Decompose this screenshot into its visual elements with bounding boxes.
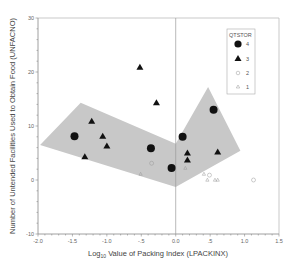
open-circle-icon xyxy=(252,178,256,182)
y-tick-label: 0 xyxy=(31,177,34,183)
scatter-chart: -2.0-1.5-1.0-.50.0.51.01.5 -100102030 Lo… xyxy=(0,0,300,269)
y-tick-label: 10 xyxy=(28,123,34,129)
y-tick-label: -10 xyxy=(26,231,34,237)
small-triangle-icon xyxy=(202,172,205,175)
y-tick-label: 30 xyxy=(28,15,34,21)
x-tick-label: 0.0 xyxy=(172,238,180,244)
x-axis-title: Log10 Value of Packing Index (LPACKINX) xyxy=(88,249,228,259)
legend: QTSTOR 4 3 2 1 xyxy=(227,29,255,94)
x-tick-label: -2.0 xyxy=(33,238,42,244)
y-axis-ticks: -100102030 xyxy=(26,15,38,237)
x-tick-label: .5 xyxy=(208,238,213,244)
legend-label-1: 1 xyxy=(246,84,249,90)
filled-circle-icon xyxy=(70,132,78,140)
y-tick-label: 20 xyxy=(28,69,34,75)
y-axis-title: Number of Untended Facilities Used to Ob… xyxy=(8,18,17,234)
filled-triangle-icon xyxy=(153,99,160,105)
shaded-region xyxy=(40,87,240,187)
legend-label-3: 3 xyxy=(246,56,249,62)
filled-circle-icon xyxy=(234,40,241,47)
filled-circle-icon xyxy=(147,144,155,152)
x-tick-label: -1.0 xyxy=(102,238,111,244)
open-circle-icon xyxy=(207,173,211,177)
x-axis-ticks: -2.0-1.5-1.0-.50.0.51.01.5 xyxy=(33,234,283,244)
filled-circle-icon xyxy=(210,106,218,114)
legend-title: QTSTOR xyxy=(229,32,252,38)
x-tick-label: 1.5 xyxy=(275,238,283,244)
legend-label-4: 4 xyxy=(246,41,249,47)
filled-circle-icon xyxy=(179,133,187,141)
legend-label-2: 2 xyxy=(246,70,249,76)
legend-box xyxy=(227,29,255,94)
filled-triangle-icon xyxy=(136,64,143,70)
x-tick-label: -.5 xyxy=(138,238,144,244)
x-tick-label: 1.0 xyxy=(241,238,249,244)
filled-circle-icon xyxy=(168,164,176,172)
x-tick-label: -1.5 xyxy=(68,238,77,244)
small-triangle-icon xyxy=(216,178,219,181)
small-triangle-icon xyxy=(206,178,209,181)
